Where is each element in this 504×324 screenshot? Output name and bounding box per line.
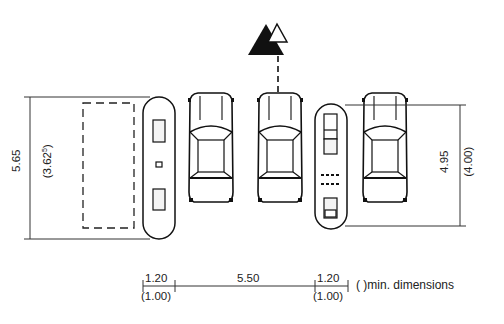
left-min-text: (3.62 <box>41 152 53 178</box>
car-1 <box>188 93 234 202</box>
right-dimension-value: 4.95 <box>439 145 451 179</box>
bottom-dim-3-min: (1.00) <box>313 291 343 303</box>
right-min-text: (4.00) <box>462 147 474 177</box>
left-min-superscript: 5 <box>41 148 48 152</box>
island-platform-left <box>143 97 175 239</box>
right-dimension-text: 4.95 <box>438 151 450 173</box>
bottom-dim-3-value: 1.20 <box>317 273 339 285</box>
right-dimension-min-value: (4.00) <box>463 140 475 184</box>
left-dimension-text: 5.65 <box>10 150 22 172</box>
legend-min-dimensions: ( )min. dimensions <box>356 279 454 291</box>
bottom-dim-2-value: 5.50 <box>237 273 259 285</box>
left-min-close: ) <box>41 144 53 148</box>
left-dimension-value: 5.65 <box>11 144 23 178</box>
dashed-parking-space <box>83 103 134 228</box>
left-dimension-min-value: (3.625) <box>41 136 54 186</box>
bottom-dim-1-min: (1.00) <box>141 291 171 303</box>
car-3 <box>362 93 408 202</box>
island-platform-right <box>315 104 347 229</box>
north-arrow-icon <box>248 24 287 92</box>
bottom-dim-1-value: 1.20 <box>145 273 167 285</box>
car-2 <box>257 93 303 202</box>
